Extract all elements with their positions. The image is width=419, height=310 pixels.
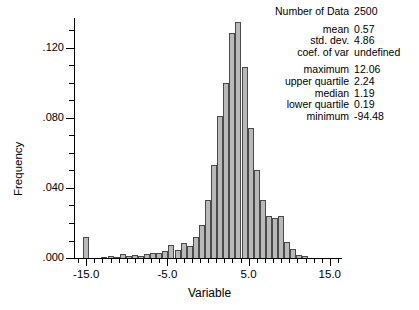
x-tick-minor xyxy=(102,258,103,263)
x-tick-major xyxy=(249,258,250,266)
y-tick-minor xyxy=(69,135,74,136)
y-tick-major xyxy=(66,258,74,259)
x-tick-minor xyxy=(241,258,242,263)
y-tick-major xyxy=(66,188,74,189)
x-tick-minor xyxy=(143,258,144,263)
y-tick-minor xyxy=(69,223,74,224)
stats-value: 2.24 xyxy=(354,76,416,88)
x-tick-minor xyxy=(289,258,290,263)
y-tick-label: .040 xyxy=(26,182,64,193)
x-tick-major xyxy=(86,258,87,266)
x-tick-major xyxy=(167,258,168,266)
x-tick-minor xyxy=(257,258,258,263)
y-tick-minor xyxy=(69,170,74,171)
x-axis-label: Variable xyxy=(0,286,419,300)
x-tick-minor xyxy=(111,258,112,263)
stats-key: Number of Data xyxy=(248,6,354,18)
x-tick-minor xyxy=(184,258,185,263)
stats-value: undefined xyxy=(354,47,416,59)
stats-value: -94.48 xyxy=(354,111,416,123)
y-tick-label: .120 xyxy=(26,42,64,53)
x-tick-minor xyxy=(119,258,120,263)
y-tick-minor xyxy=(69,153,74,154)
x-tick-minor xyxy=(281,258,282,263)
x-tick-minor xyxy=(135,258,136,263)
x-tick-minor xyxy=(176,258,177,263)
plot-area xyxy=(74,18,342,258)
x-tick-minor xyxy=(151,258,152,263)
y-tick-minor xyxy=(69,100,74,101)
x-tick-minor xyxy=(78,258,79,263)
x-tick-label: -15.0 xyxy=(61,268,111,280)
y-tick-minor xyxy=(69,30,74,31)
y-tick-major xyxy=(66,48,74,49)
x-tick-minor xyxy=(224,258,225,263)
stats-row: Number of Data2500 xyxy=(248,6,416,18)
x-tick-minor xyxy=(322,258,323,263)
x-tick-minor xyxy=(127,258,128,263)
x-tick-major xyxy=(330,258,331,266)
y-tick-label: .000 xyxy=(26,252,64,263)
x-tick-minor xyxy=(265,258,266,263)
x-tick-label: 15.0 xyxy=(305,268,355,280)
x-tick-minor xyxy=(297,258,298,263)
x-tick-minor xyxy=(232,258,233,263)
x-tick-minor xyxy=(192,258,193,263)
x-tick-minor xyxy=(314,258,315,263)
x-tick-label: 5.0 xyxy=(224,268,274,280)
x-tick-minor xyxy=(159,258,160,263)
histogram-bar xyxy=(83,237,89,258)
x-tick-minor xyxy=(306,258,307,263)
y-tick-minor xyxy=(69,241,74,242)
y-tick-minor xyxy=(69,65,74,66)
stats-value: 0.19 xyxy=(354,99,416,111)
x-tick-minor xyxy=(216,258,217,263)
y-tick-minor xyxy=(69,83,74,84)
y-axis-label-wrap: Frequency xyxy=(18,100,19,101)
x-tick-label: -5.0 xyxy=(142,268,192,280)
x-tick-minor xyxy=(94,258,95,263)
y-axis-label: Frequency xyxy=(12,142,24,196)
stats-value: 2500 xyxy=(354,6,416,18)
y-tick-label: .080 xyxy=(26,112,64,123)
x-tick-minor xyxy=(208,258,209,263)
y-tick-minor xyxy=(69,205,74,206)
x-tick-minor xyxy=(338,258,339,263)
y-tick-major xyxy=(66,118,74,119)
x-tick-minor xyxy=(273,258,274,263)
histogram-figure: Number of Data2500mean0.57std. dev.4.86c… xyxy=(0,0,419,310)
x-tick-minor xyxy=(200,258,201,263)
